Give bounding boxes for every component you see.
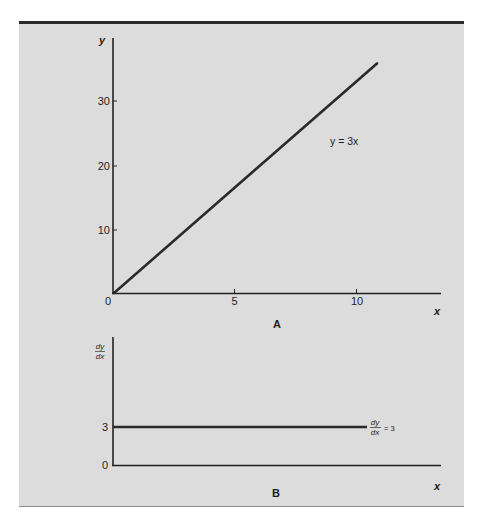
chart-b: dy dx 3 0 dy dx = 3 x B	[95, 337, 441, 499]
x-tick-label-10: 10	[351, 295, 363, 307]
panel-label-a: A	[273, 318, 281, 330]
figure-svg: 30 20 10 0 5 10 y x y = 3x A dy dx 3 0 d…	[0, 0, 482, 526]
origin-label-b: 0	[102, 459, 108, 471]
line-annotation-b-num: dy	[371, 418, 380, 427]
line-annotation-b-den: dx	[371, 428, 380, 437]
series-y-equals-3x	[114, 64, 377, 294]
y-tick-label-10: 10	[98, 224, 110, 236]
chart-a-y-label: y	[98, 34, 106, 46]
chart-b-y-label-den: dx	[96, 352, 105, 361]
chart-a-x-label: x	[433, 305, 441, 317]
x-tick-label-5: 5	[231, 295, 237, 307]
y-tick-label-20: 20	[98, 160, 110, 172]
chart-b-x-label: x	[433, 480, 441, 492]
chart-a: 30 20 10 0 5 10 y x y = 3x A	[98, 34, 441, 330]
panel-label-b: B	[272, 487, 280, 499]
y-tick-label-30: 30	[98, 95, 110, 107]
y-tick-label-3: 3	[102, 421, 108, 433]
origin-label-a: 0	[105, 295, 111, 307]
chart-b-y-label-num: dy	[96, 342, 105, 351]
line-annotation-a: y = 3x	[330, 135, 359, 147]
line-annotation-b-rhs: = 3	[384, 424, 395, 433]
